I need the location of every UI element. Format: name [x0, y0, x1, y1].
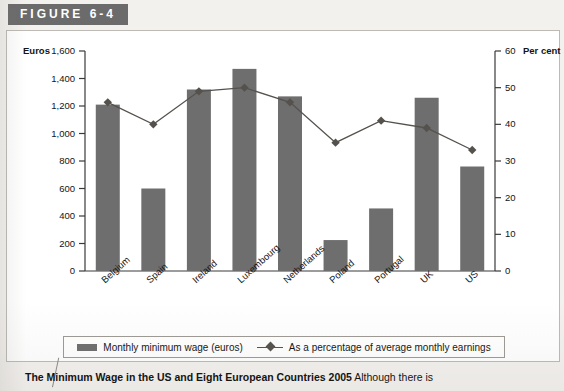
y-tick-left-400: 400	[31, 210, 75, 221]
y-tick-left-800: 800	[31, 155, 75, 166]
line-marker-us	[468, 146, 476, 154]
bar-luxembourg	[232, 69, 256, 271]
legend-item-line: As a percentage of average monthly earni…	[257, 342, 491, 353]
bar-us	[460, 167, 484, 272]
bar-belgium	[96, 105, 120, 271]
figure-caption: The Minimum Wage in the US and Eight Eur…	[25, 371, 555, 384]
bar-spain	[141, 189, 165, 272]
y-tick-right-60: 60	[505, 45, 535, 56]
caption-body: Although there is	[354, 371, 433, 383]
y-tick-left-1200: 1,200	[31, 100, 75, 111]
chart-plot-area	[7, 31, 559, 361]
line-marker-portugal	[377, 116, 385, 124]
caption-title: The Minimum Wage in the US and Eight Eur…	[25, 371, 352, 383]
y-tick-left-1600: 1,600	[31, 45, 75, 56]
chart-panel: Euros Per cent 02004006008001,0001,2001,…	[6, 30, 560, 362]
y-tick-left-0: 0	[31, 265, 75, 276]
y-tick-right-20: 20	[505, 192, 535, 203]
y-tick-right-40: 40	[505, 118, 535, 129]
bar-uk	[415, 98, 439, 271]
bar-swatch-icon	[77, 344, 97, 351]
line-marker-spain	[149, 120, 157, 128]
legend-label-bar: Monthly minimum wage (euros)	[103, 342, 243, 353]
y-tick-right-30: 30	[505, 155, 535, 166]
bar-ireland	[187, 90, 211, 272]
y-tick-left-1400: 1,400	[31, 73, 75, 84]
tick-marks-right	[495, 51, 501, 271]
y-tick-left-200: 200	[31, 238, 75, 249]
y-tick-right-50: 50	[505, 82, 535, 93]
bar-netherlands	[278, 96, 302, 271]
y-tick-right-10: 10	[505, 228, 535, 239]
y-tick-right-0: 0	[505, 265, 535, 276]
legend-item-bar: Monthly minimum wage (euros)	[77, 342, 243, 353]
legend-label-line: As a percentage of average monthly earni…	[289, 342, 491, 353]
y-tick-left-600: 600	[31, 183, 75, 194]
chart-legend: Monthly minimum wage (euros) As a percen…	[63, 336, 505, 358]
y-tick-left-1000: 1,000	[31, 128, 75, 139]
figure-badge: FIGURE 6-4	[8, 4, 128, 25]
tick-marks-left	[79, 51, 85, 271]
line-diamond-marker-icon	[257, 343, 283, 352]
